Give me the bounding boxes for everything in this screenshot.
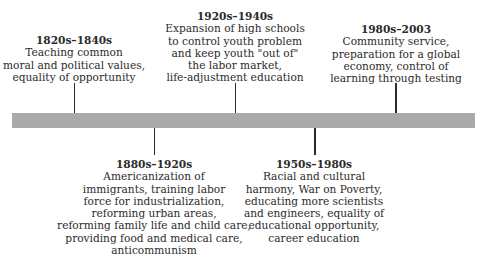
event-description-line: the labor market,	[165, 59, 305, 71]
event-description-line: educating more scientists	[244, 195, 384, 207]
event-connector-1880s	[154, 128, 156, 155]
event-connector-1950s	[314, 128, 316, 155]
event-period: 1980s–2003	[330, 23, 462, 35]
event-description-line: Expansion of high schools	[165, 22, 305, 34]
event-description-line: force for industrialization,	[57, 195, 251, 207]
event-description-line: Community service,	[330, 35, 462, 47]
event-label-1820s: 1820s–1840s Teaching common moral and po…	[3, 34, 145, 83]
event-connector-1820s	[74, 83, 76, 113]
event-label-1880s: 1880s–1920s Americanization of immigrant…	[57, 158, 251, 256]
event-description-line: anticommunism	[57, 244, 251, 256]
event-connector-1980s	[395, 83, 397, 113]
event-description-line: Teaching common	[3, 46, 145, 58]
event-period: 1950s–1980s	[244, 158, 384, 170]
event-period: 1880s–1920s	[57, 158, 251, 170]
event-label-1950s: 1950s–1980s Racial and cultural harmony,…	[244, 158, 384, 244]
event-label-1920s: 1920s–1940s Expansion of high schools to…	[165, 10, 305, 84]
event-description-line: and keep youth "out of"	[165, 47, 305, 59]
event-description-line: Racial and cultural	[244, 170, 384, 182]
event-description-line: and engineers, equality of	[244, 207, 384, 219]
event-description-line: reforming family life and child care,	[57, 219, 251, 231]
event-description-line: harmony, War on Poverty,	[244, 183, 384, 195]
event-description-line: preparation for a global	[330, 48, 462, 60]
event-label-1980s: 1980s–2003 Community service, preparatio…	[330, 23, 462, 84]
event-description-line: providing food and medical care,	[57, 232, 251, 244]
event-connector-1920s	[235, 83, 237, 113]
event-period: 1920s–1940s	[165, 10, 305, 22]
event-description-line: career education	[244, 232, 384, 244]
event-description-line: immigrants, training labor	[57, 183, 251, 195]
event-description-line: educational opportunity,	[244, 219, 384, 231]
event-description-line: Americanization of	[57, 170, 251, 182]
timeline-bar	[12, 113, 475, 128]
event-description-line: economy, control of	[330, 60, 462, 72]
event-description-line: life-adjustment education	[165, 71, 305, 83]
event-description-line: learning through testing	[330, 72, 462, 84]
event-description-line: equality of opportunity	[3, 71, 145, 83]
event-period: 1820s–1840s	[3, 34, 145, 46]
event-description-line: moral and political values,	[3, 59, 145, 71]
event-description-line: to control youth problem	[165, 35, 305, 47]
event-description-line: reforming urban areas,	[57, 207, 251, 219]
